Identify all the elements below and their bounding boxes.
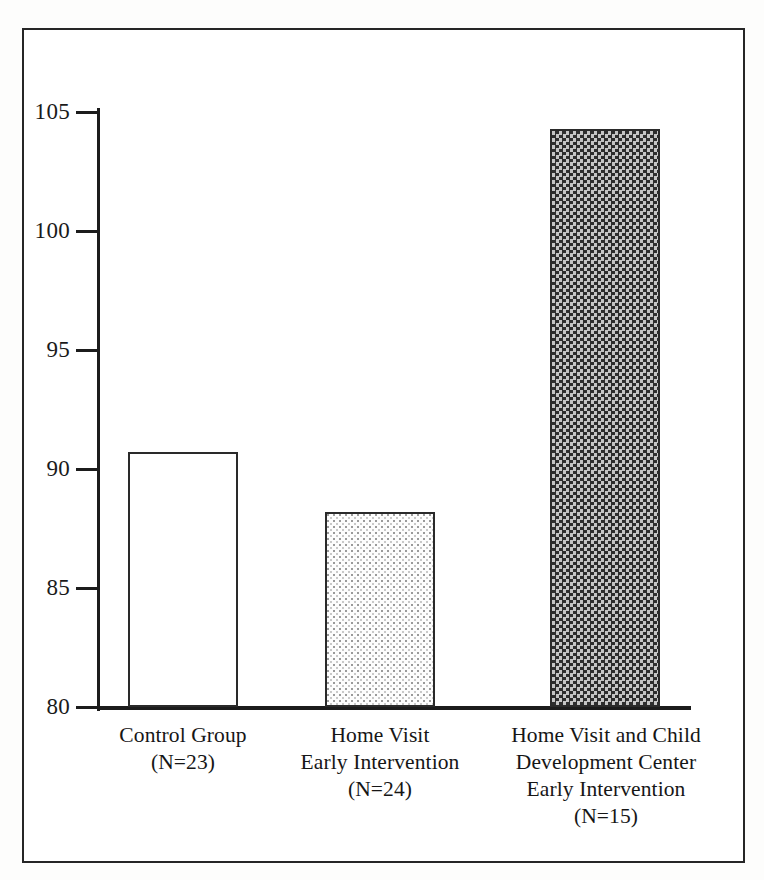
- y-tick-mark-95: [76, 349, 98, 352]
- bar-home-visit-early-intervention: [325, 512, 435, 707]
- y-tick-label-80: 80: [8, 695, 70, 718]
- category-label-line: Early Intervention: [486, 776, 726, 803]
- category-label-line: (N=24): [272, 776, 488, 803]
- y-tick-mark-100: [76, 230, 98, 233]
- figure-container: 105 100 95 90 85 80 Control Group (N=23)…: [0, 0, 764, 880]
- y-tick-label-85: 85: [8, 576, 70, 599]
- category-label-line: (N=15): [486, 803, 726, 830]
- y-tick-label-95: 95: [8, 338, 70, 361]
- category-label-line: Home Visit and Child: [486, 722, 726, 749]
- y-tick-mark-105: [76, 111, 98, 114]
- category-label-home-visit-early-intervention: Home Visit Early Intervention (N=24): [272, 722, 488, 803]
- y-tick-label-105: 105: [8, 100, 70, 123]
- y-tick-mark-85: [76, 587, 98, 590]
- category-label-line: Development Center: [486, 749, 726, 776]
- y-tick-mark-90: [76, 468, 98, 471]
- category-label-home-visit-and-child-development-center: Home Visit and Child Development Center …: [486, 722, 726, 830]
- category-label-line: (N=23): [93, 749, 273, 776]
- y-axis-line: [97, 108, 100, 711]
- bar-chart-plot-area: 105 100 95 90 85 80 Control Group (N=23)…: [0, 0, 764, 880]
- y-tick-label-100: 100: [8, 219, 70, 242]
- bar-control-group: [128, 452, 238, 707]
- category-label-line: Early Intervention: [272, 749, 488, 776]
- category-label-line: Control Group: [93, 722, 273, 749]
- category-label-line: Home Visit: [272, 722, 488, 749]
- category-label-control-group: Control Group (N=23): [93, 722, 273, 776]
- y-tick-label-90: 90: [8, 457, 70, 480]
- bar-home-visit-and-child-development-center-early-intervention: [550, 129, 660, 707]
- y-tick-mark-80: [76, 706, 98, 709]
